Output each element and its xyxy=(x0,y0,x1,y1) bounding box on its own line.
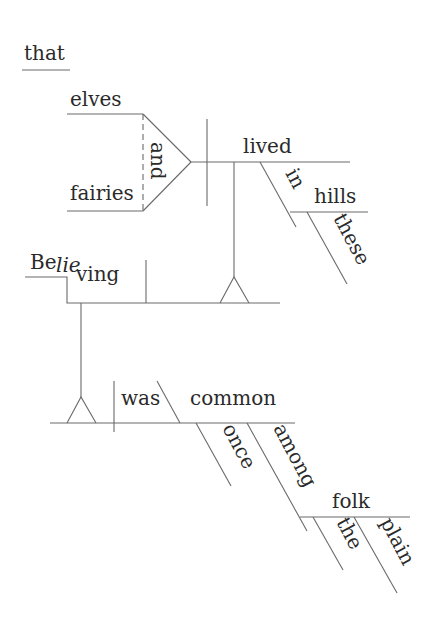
word-lived: lived xyxy=(243,134,292,158)
word-folk: folk xyxy=(332,489,371,513)
word-fairies: fairies xyxy=(70,181,134,205)
sentence-diagram: that elves fairies and lived in hills th… xyxy=(0,0,436,623)
word-and: and xyxy=(146,142,170,180)
predicate-adjective-divider xyxy=(157,381,180,423)
word-hills: hills xyxy=(314,184,356,208)
word-common: common xyxy=(190,386,276,410)
word-gerund-suffix: ving xyxy=(75,262,120,286)
word-plain: plain xyxy=(376,513,421,569)
word-among: among xyxy=(269,419,322,491)
word-in: in xyxy=(281,164,311,192)
word-once: once xyxy=(218,419,262,473)
clause-pedestal xyxy=(220,277,249,303)
word-elves: elves xyxy=(70,87,122,111)
word-was: was xyxy=(121,386,160,410)
word-that: that xyxy=(24,41,65,65)
gerund-pedestal xyxy=(67,397,96,423)
word-gerund-prefix: Be xyxy=(30,250,57,274)
word-these: these xyxy=(329,209,376,269)
